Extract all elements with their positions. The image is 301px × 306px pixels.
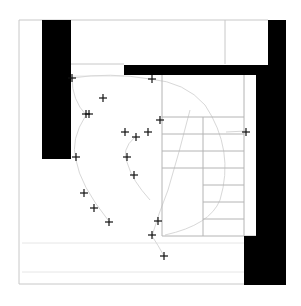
top-beam bbox=[124, 65, 268, 75]
plus-marker-icon bbox=[121, 128, 129, 136]
plus-marker-icon bbox=[80, 189, 88, 197]
top-arc bbox=[72, 75, 205, 105]
plus-marker-icon bbox=[160, 252, 168, 260]
walls bbox=[42, 20, 286, 285]
floor-plan-diagram bbox=[0, 0, 301, 306]
plus-marker-icon bbox=[148, 75, 156, 83]
plus-marker-icon bbox=[242, 128, 250, 136]
plus-marker-icon bbox=[130, 171, 138, 179]
plus-marker-icon bbox=[144, 128, 152, 136]
plus-marker-icon bbox=[123, 153, 131, 161]
left-wall bbox=[42, 20, 71, 159]
plus-marker-icon bbox=[99, 94, 107, 102]
plus-marker-icon bbox=[148, 231, 156, 239]
floor-plan-canvas bbox=[0, 0, 301, 306]
plus-marker-icon bbox=[132, 133, 140, 141]
right-wall-upper bbox=[268, 20, 286, 285]
plus-marker-icon bbox=[72, 153, 80, 161]
stair-curve-left bbox=[152, 110, 190, 256]
plus-marker-icon bbox=[105, 218, 113, 226]
plus-markers bbox=[68, 74, 250, 260]
center-arc bbox=[125, 137, 150, 200]
right-wall-lower bbox=[244, 236, 268, 285]
path-curves bbox=[72, 75, 246, 256]
stair-block bbox=[162, 75, 256, 236]
